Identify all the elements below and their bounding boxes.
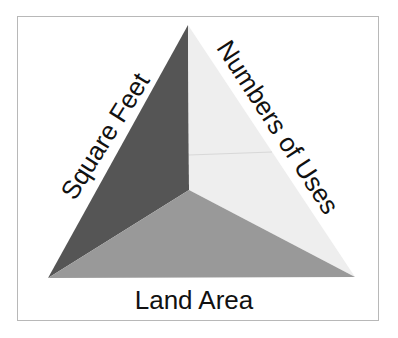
- land-area-label: Land Area: [0, 287, 388, 313]
